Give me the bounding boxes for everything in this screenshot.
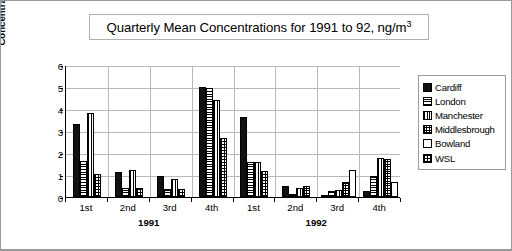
bar <box>296 188 303 197</box>
chart-title-box: Quarterly Mean Concentrations for 1991 t… <box>89 14 429 40</box>
y-tick-mark <box>60 176 63 177</box>
bar <box>87 113 94 197</box>
bar <box>349 170 356 198</box>
x-tick-label: 4th <box>205 202 218 213</box>
bar <box>73 124 80 197</box>
bar <box>321 195 328 197</box>
bar <box>342 182 349 197</box>
x-year-label: 1992 <box>306 217 327 228</box>
x-tick-mark <box>274 198 275 202</box>
x-tick-mark <box>191 198 192 202</box>
bar <box>289 194 296 197</box>
x-tick-mark <box>65 198 66 202</box>
bar <box>94 174 101 197</box>
y-tick-mark <box>60 88 63 89</box>
bar <box>282 186 289 197</box>
y-tick-mark <box>60 132 63 133</box>
x-tick-label: 1st <box>247 202 260 213</box>
legend-label: Cardiff <box>435 82 461 93</box>
legend-swatch-icon <box>423 139 432 148</box>
legend-label: London <box>435 96 466 107</box>
x-tick-label: 2nd <box>287 202 303 213</box>
bar <box>171 179 178 197</box>
legend-item[interactable]: London <box>423 94 502 108</box>
x-tick-label: 2nd <box>120 202 136 213</box>
legend-item[interactable]: Middlesbrough <box>423 123 502 137</box>
x-tick-label: 3rd <box>163 202 177 213</box>
bar-group <box>275 66 317 197</box>
bar <box>157 176 164 197</box>
chart-legend: CardiffLondonManchesterMiddlesbroughBowl… <box>418 75 506 170</box>
bar <box>261 171 268 197</box>
legend-swatch-icon <box>423 125 432 134</box>
legend-item[interactable]: Bowland <box>423 137 502 151</box>
x-tick-mark <box>400 198 401 202</box>
bar <box>254 162 261 197</box>
x-tick-mark <box>358 198 359 202</box>
legend-label: Middlesbrough <box>435 124 495 135</box>
bar <box>377 158 384 197</box>
y-tick-mark <box>60 110 63 111</box>
bar-group <box>150 66 192 197</box>
bar <box>80 161 87 197</box>
x-tick-mark <box>233 198 234 202</box>
x-tick-mark <box>107 198 108 202</box>
bar <box>213 100 220 197</box>
x-tick-mark <box>149 198 150 202</box>
bar <box>240 117 247 197</box>
bar-group <box>108 66 150 197</box>
bar <box>247 162 254 197</box>
bar <box>328 191 335 197</box>
y-tick-mark <box>60 154 63 155</box>
bar <box>206 88 213 197</box>
x-tick-label: 4th <box>372 202 385 213</box>
y-axis-title: Concentration, ng/m3 <box>0 0 7 67</box>
x-year-label: 1991 <box>138 217 159 228</box>
bar <box>335 190 342 197</box>
bar <box>370 176 377 197</box>
legend-swatch-icon <box>423 111 432 120</box>
chart-figure: Quarterly Mean Concentrations for 1991 t… <box>0 0 512 251</box>
plot-area <box>65 66 400 198</box>
legend-label: Manchester <box>435 110 483 121</box>
x-tick-label: 3rd <box>330 202 344 213</box>
legend-swatch-icon <box>423 154 432 163</box>
y-axis-ticks: 0123456 <box>35 66 63 198</box>
legend-label: Bowland <box>435 138 470 149</box>
legend-item[interactable]: Cardiff <box>423 80 502 94</box>
legend-item[interactable]: WSL <box>423 151 502 165</box>
bar-group <box>66 66 108 197</box>
chart-title: Quarterly Mean Concentrations for 1991 t… <box>107 19 412 35</box>
legend-label: WSL <box>435 153 455 164</box>
y-tick-mark <box>60 66 63 67</box>
bar <box>303 186 310 197</box>
bar-group <box>359 66 401 197</box>
legend-swatch-icon <box>423 97 432 106</box>
bar <box>199 87 206 197</box>
bar <box>129 170 136 197</box>
bar <box>363 191 370 197</box>
y-tick-mark <box>60 198 63 199</box>
x-tick-mark <box>316 198 317 202</box>
bar <box>391 182 398 197</box>
bar <box>178 189 185 197</box>
bar <box>220 138 227 197</box>
bar <box>136 188 143 197</box>
bar <box>164 189 171 197</box>
bar <box>384 159 391 197</box>
x-tick-label: 1st <box>80 202 93 213</box>
bar <box>115 172 122 197</box>
bar-group <box>234 66 276 197</box>
figure-bottom-rule <box>1 249 511 250</box>
legend-swatch-icon <box>423 83 432 92</box>
legend-item[interactable]: Manchester <box>423 108 502 122</box>
bar-group <box>192 66 234 197</box>
bar-group <box>317 66 359 197</box>
bar <box>122 188 129 197</box>
